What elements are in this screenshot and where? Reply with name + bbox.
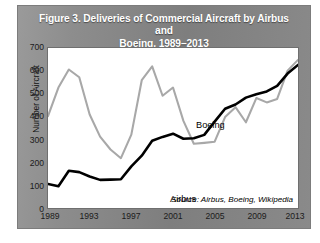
x-tick-label: 2001 xyxy=(163,211,182,221)
x-tick-label: 2005 xyxy=(205,211,224,221)
figure-title: Figure 3. Deliveries of Commercial Aircr… xyxy=(18,13,310,50)
x-tick-label: 2009 xyxy=(247,211,266,221)
line-series-boeing xyxy=(48,60,298,158)
y-tick-label: 200 xyxy=(30,158,44,168)
y-tick-label: 600 xyxy=(30,65,44,75)
x-tick-label: 1997 xyxy=(121,211,140,221)
line-series-airbus xyxy=(48,65,298,186)
x-tick-label: 1993 xyxy=(79,211,98,221)
series-label-boeing: Boeing xyxy=(196,120,225,130)
y-tick-label: 700 xyxy=(30,42,44,52)
figure-card: Figure 3. Deliveries of Commercial Aircr… xyxy=(18,6,310,228)
source-note: Source: Airbus, Boeing, Wikipedia xyxy=(158,195,293,204)
y-tick-label: 100 xyxy=(30,181,44,191)
x-tick-label: 2013 xyxy=(285,211,304,221)
y-tick-label: 500 xyxy=(30,88,44,98)
y-tick-label: 400 xyxy=(30,111,44,121)
x-tick-label: 1989 xyxy=(40,211,59,221)
y-axis-tick-labels: 0100200300400500600700 xyxy=(18,47,44,209)
plot-area: Boeing Airbus Source: Airbus, Boeing, Wi… xyxy=(47,47,299,209)
x-axis-tick-labels: 1989199319972001200520092013 xyxy=(47,211,299,225)
y-tick-label: 300 xyxy=(30,135,44,145)
chart-lines xyxy=(48,48,298,208)
figure-title-line-1: Figure 3. Deliveries of Commercial Aircr… xyxy=(18,13,310,38)
